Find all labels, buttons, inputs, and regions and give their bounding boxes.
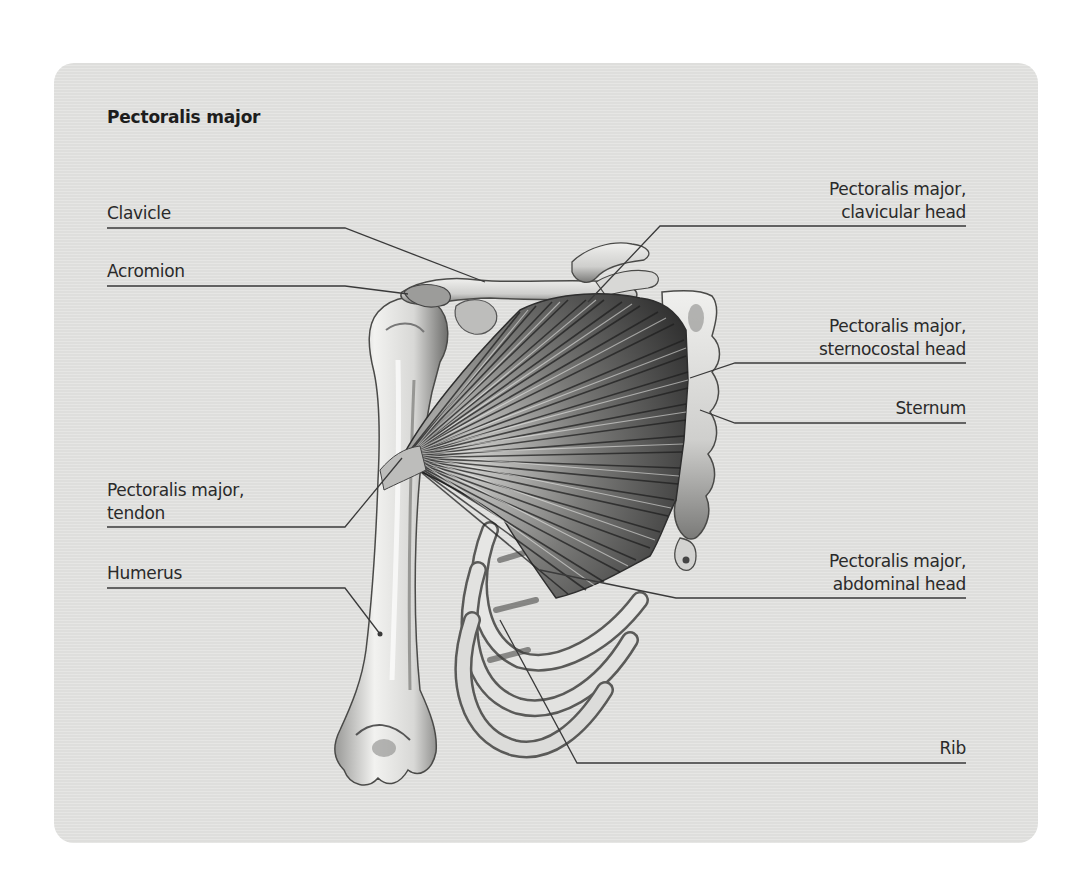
leader-line-humerus (107, 588, 380, 634)
label-text: Rib (940, 737, 966, 760)
label-text: Humerus (107, 562, 182, 585)
label-text: tendon (107, 502, 244, 525)
label-text: sternocostal head (819, 338, 966, 361)
diagram-title: Pectoralis major (107, 107, 260, 127)
label-text: Pectoralis major, (829, 178, 966, 201)
label-pectoralis-tendon: Pectoralis major, tendon (107, 479, 244, 525)
leader-line-acromion (107, 286, 408, 294)
humerus-bone (335, 297, 448, 785)
label-humerus: Humerus (107, 562, 182, 585)
label-text: Clavicle (107, 202, 171, 225)
label-text: Pectoralis major, (829, 550, 966, 573)
humerus-pointer-dot (378, 632, 383, 637)
label-acromion: Acromion (107, 260, 185, 283)
label-clavicle: Clavicle (107, 202, 171, 225)
label-text: clavicular head (829, 201, 966, 224)
label-text: Sternum (895, 397, 966, 420)
label-text: Acromion (107, 260, 185, 283)
label-text: Pectoralis major, (819, 315, 966, 338)
label-abdominal-head: Pectoralis major, abdominal head (829, 550, 966, 596)
label-text: Pectoralis major, (107, 479, 244, 502)
label-sternocostal-head: Pectoralis major, sternocostal head (819, 315, 966, 361)
label-clavicular-head: Pectoralis major, clavicular head (829, 178, 966, 224)
label-sternum: Sternum (895, 397, 966, 420)
label-rib: Rib (940, 737, 966, 760)
leader-line-clavicular-head (588, 226, 966, 302)
anatomy-illustration (0, 0, 1085, 887)
label-text: abdominal head (829, 573, 966, 596)
leader-line-sternocostal-head (690, 363, 966, 378)
